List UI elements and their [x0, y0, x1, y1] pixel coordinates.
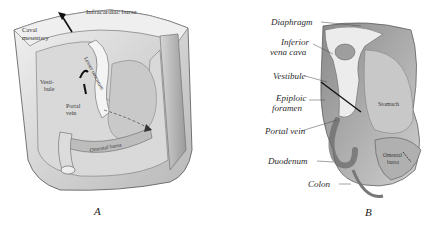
label-caval-mesentery-line1: Caval	[22, 26, 37, 33]
label-stomach: Stomach	[378, 101, 399, 107]
label-vestibule-line2: bule	[44, 86, 55, 92]
label-duodenum: Duodenum	[267, 156, 308, 166]
label-vestibule: Vestibule	[273, 71, 306, 81]
label-omental-bursa-line1: Omental	[383, 152, 402, 158]
label-inferior-vena-cava-line1: Inferior	[280, 37, 309, 47]
label-omental-bursa-line2: bursa	[387, 159, 399, 165]
label-portal-vein: Portal vein	[264, 126, 306, 136]
label-diaphragm: Diaphragm	[270, 17, 313, 27]
label-portal-vein-line2: vein	[66, 110, 76, 116]
panel-a-letter: A	[94, 205, 101, 217]
panel-b-illustration: Diaphragm Inferior vena cava Vestibule E…	[215, 0, 429, 210]
panel-a: Infracardiac bursa Caval mesentery Lesse…	[0, 0, 215, 226]
label-epiploic-foramen-line1: Epiploic	[275, 93, 307, 103]
label-colon: Colon	[308, 179, 331, 189]
label-vestibule-line1: Vesti-	[40, 79, 54, 85]
panel-a-illustration: Infracardiac bursa Caval mesentery Lesse…	[0, 0, 215, 200]
label-caval-mesentery-line2: mesentery	[22, 34, 49, 41]
label-inferior-vena-cava-line2: vena cava	[270, 47, 307, 57]
label-portal-vein-line1: Portal	[66, 103, 81, 109]
label-infracardiac-bursa: Infracardiac bursa	[86, 8, 138, 16]
label-epiploic-foramen-line2: foramen	[272, 103, 302, 113]
panel-b: Diaphragm Inferior vena cava Vestibule E…	[215, 0, 429, 226]
panel-b-letter: B	[365, 206, 372, 218]
